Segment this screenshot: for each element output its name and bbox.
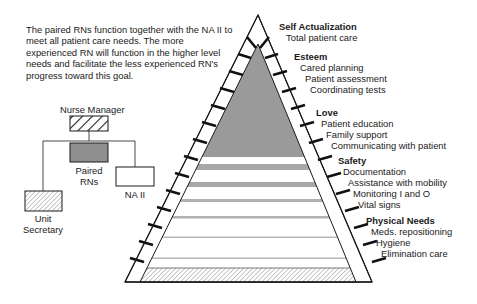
level-esteem-title: Esteem [294, 51, 327, 62]
level-esteem-item: Patient assessment [305, 73, 387, 84]
level-physical-needs-title: Physical Needs [366, 215, 435, 226]
unit-secretary-label-line1: Unit [18, 213, 68, 224]
nurse-manager-label: Nurse Manager [60, 104, 125, 115]
level-esteem-item: Coordinating tests [310, 84, 386, 95]
paired-rns-box [70, 143, 108, 162]
unit-secretary-label: Unit Secretary [18, 213, 68, 235]
level-physical-needs-item: Elimination care [381, 248, 448, 259]
level-love-item: Family support [326, 129, 387, 140]
level-self-actualization-item: Total patient care [286, 32, 357, 43]
na-ii-label: NA II [116, 189, 154, 200]
level-safety-item: Assistance with mobility [348, 177, 447, 188]
level-esteem-item: Cared planning [300, 62, 364, 73]
level-physical-needs-item: Meds. repositioning [371, 226, 452, 237]
paired-rns-label-line2: RNs [73, 176, 105, 187]
level-safety-title: Safety [338, 155, 366, 166]
unit-secretary-label-line2: Secretary [18, 224, 68, 235]
level-love-title: Love [316, 107, 338, 118]
level-love-item: Patient education [321, 118, 393, 129]
level-safety-item: Documentation [343, 166, 406, 177]
unit-secretary-box [25, 191, 62, 211]
level-self-actualization-title: Self Actualization [279, 21, 357, 32]
level-love-item: Communicating with patient [331, 140, 446, 151]
nurse-manager-box [70, 116, 108, 131]
level-physical-needs-item: Hygiene [376, 237, 410, 248]
paired-rns-label: Paired RNs [73, 165, 105, 187]
paired-rns-label-line1: Paired [73, 165, 105, 176]
level-safety-item: Vital signs [358, 199, 401, 210]
na-ii-box [116, 167, 154, 186]
level-safety-item: Monitoring I and O [353, 188, 430, 199]
